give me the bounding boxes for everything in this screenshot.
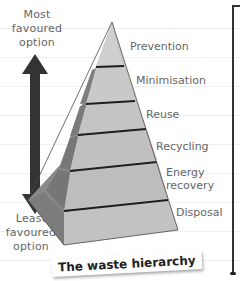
recovery-line: recovery: [166, 179, 214, 192]
tier-label-reuse: Reuse: [146, 108, 179, 121]
tier-label-prevention: Prevention: [130, 40, 189, 53]
tier-label-disposal: Disposal: [176, 206, 223, 219]
tier-label-energy-recovery: Energy recovery: [166, 166, 214, 192]
tier-label-recycling: Recycling: [156, 140, 209, 153]
energy-line: Energy: [166, 166, 214, 179]
tier-label-minimisation: Minimisation: [136, 74, 206, 87]
